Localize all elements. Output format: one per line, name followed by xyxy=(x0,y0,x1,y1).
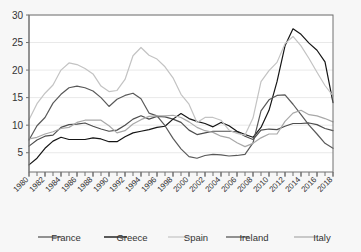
y-tick-label: 15 xyxy=(12,92,24,103)
y-tick-label: 5 xyxy=(17,147,23,158)
y-tick-label: 30 xyxy=(12,10,24,21)
line-chart: 51015202530 1980198219841986198819901992… xyxy=(0,0,361,252)
y-tick-label: 10 xyxy=(12,120,24,131)
legend-label-ireland: Ireland xyxy=(239,232,268,243)
legend-label-greece: Greece xyxy=(116,232,147,243)
chart-figure: 51015202530 1980198219841986198819901992… xyxy=(0,0,361,252)
legend-label-spain: Spain xyxy=(184,232,208,243)
legend-label-italy: Italy xyxy=(313,232,331,243)
y-tick-label: 25 xyxy=(12,37,24,48)
legend-label-france: France xyxy=(51,232,81,243)
y-tick-label: 20 xyxy=(12,65,24,76)
